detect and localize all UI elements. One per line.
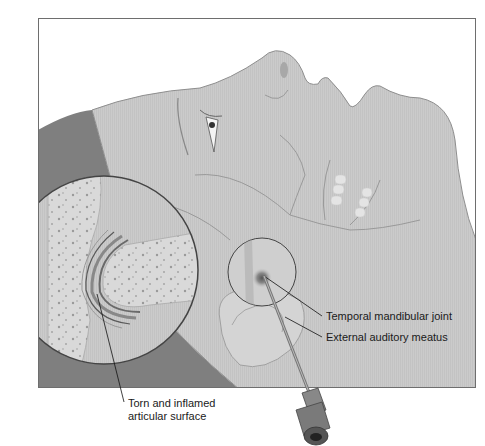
pupil [209,122,215,128]
label-torn-articular-surface: Torn and inflamed articular surface [128,397,215,423]
nostril [280,62,288,78]
label-torn-line2: articular surface [128,410,215,423]
label-temporal-mandibular-joint: Temporal mandibular joint [326,310,452,323]
tmj-illustration [0,0,485,446]
label-torn-line1: Torn and inflamed [128,397,215,410]
label-external-auditory-meatus: External auditory meatus [326,331,448,344]
